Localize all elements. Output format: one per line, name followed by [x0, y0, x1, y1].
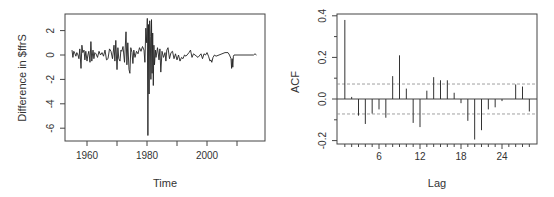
y-tick-label: -6: [45, 123, 56, 132]
x-tick-label: 12: [414, 151, 426, 162]
y-tick-label: -4: [45, 99, 56, 108]
right-y-axis: -0.20.00.20.4: [317, 8, 337, 149]
left-y-axis: -6-4-202: [45, 27, 65, 132]
x-tick-label: 18: [455, 151, 467, 162]
y-tick-label: -2: [45, 75, 56, 84]
x-tick-label: 24: [496, 151, 508, 162]
y-tick-label: 0.2: [317, 50, 328, 64]
y-tick-label: 2: [45, 27, 56, 33]
chart-canvas: -6-4-202 196019802000 Time Difference in…: [0, 0, 554, 197]
left-x-label: Time: [153, 177, 177, 189]
right-x-label: Lag: [428, 177, 446, 189]
time-series-plot: -6-4-202 196019802000 Time Difference in…: [16, 14, 265, 189]
right-plot-box: [337, 14, 537, 144]
x-tick-label: 2000: [196, 150, 219, 161]
right-y-label: ACF: [289, 71, 301, 93]
y-tick-label: -0.2: [317, 132, 328, 150]
left-y-label: Difference in $ffrS: [16, 34, 28, 122]
y-tick-label: 0.4: [317, 8, 328, 22]
left-plot-box: [65, 14, 265, 141]
y-tick-label: 0: [45, 52, 56, 58]
time-series-line: [72, 18, 257, 135]
right-x-axis: 6121824: [345, 144, 529, 162]
acf-bars: [345, 20, 529, 140]
left-x-axis: 196019802000: [76, 141, 237, 161]
y-tick-label: 0.0: [317, 92, 328, 106]
x-tick-label: 1980: [136, 150, 159, 161]
x-tick-label: 6: [376, 151, 382, 162]
x-tick-label: 1960: [76, 150, 99, 161]
acf-plot: -0.20.00.20.4 6121824 Lag ACF: [289, 8, 537, 189]
